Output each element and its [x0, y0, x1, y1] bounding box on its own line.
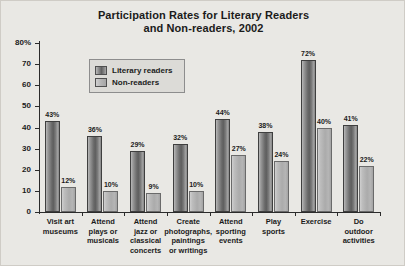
bar-non-readers[interactable]: 9%: [146, 193, 161, 212]
x-axis-separator-tick: [252, 212, 253, 216]
bar-literary-readers[interactable]: 36%: [87, 136, 102, 212]
chart-legend: Literary readers Non-readers: [89, 59, 185, 93]
x-axis-end-tick: [380, 212, 381, 216]
bar-literary-readers[interactable]: 43%: [45, 121, 60, 212]
bar-value-label: 41%: [344, 115, 358, 123]
y-axis-label: 60: [1, 81, 31, 89]
bar-non-readers[interactable]: 10%: [189, 191, 204, 212]
legend-label-literary-readers: Literary readers: [112, 66, 172, 75]
bar-non-readers[interactable]: 12%: [61, 187, 76, 212]
category-label: Do outdoor activities: [331, 217, 386, 246]
bar-group: 44%27%: [215, 43, 246, 212]
bar-literary-readers[interactable]: 38%: [258, 132, 273, 212]
chart-title-line-1: Participation Rates for Literary Readers: [1, 9, 405, 22]
bar-value-label: 72%: [301, 50, 315, 58]
y-axis-label: 30: [1, 145, 31, 153]
bar-group: 43%12%: [45, 43, 76, 212]
legend-item-non-readers[interactable]: Non-readers: [95, 76, 179, 88]
bar-value-label: 9%: [149, 183, 159, 191]
y-axis-label: 10: [1, 187, 31, 195]
bar-value-label: 43%: [45, 111, 59, 119]
bar-value-label: 10%: [104, 181, 118, 189]
bar-value-label: 32%: [173, 134, 187, 142]
x-axis-separator-tick: [82, 212, 83, 216]
bar-value-label: 12%: [61, 177, 75, 185]
bar-group: 41%22%: [343, 43, 374, 212]
bar-literary-readers[interactable]: 44%: [215, 119, 230, 212]
legend-swatch-icon-literary-readers: [95, 66, 107, 75]
legend-swatch-icon-non-readers: [95, 78, 107, 87]
bar-value-label: 10%: [189, 181, 203, 189]
y-axis-label: 0: [1, 208, 31, 216]
x-axis-separator-tick: [337, 212, 338, 216]
bar-non-readers[interactable]: 24%: [274, 161, 289, 212]
y-axis-label: 70: [1, 60, 31, 68]
bar-value-label: 40%: [317, 118, 331, 126]
y-axis-tick: [35, 212, 39, 213]
x-axis-separator-tick: [295, 212, 296, 216]
bar-literary-readers[interactable]: 72%: [301, 60, 316, 212]
bar-literary-readers[interactable]: 41%: [343, 125, 358, 212]
y-axis-label: 80%: [1, 39, 31, 47]
y-axis-label: 20: [1, 166, 31, 174]
x-axis-separator-tick: [210, 212, 211, 216]
bar-group: 38%24%: [258, 43, 289, 212]
bar-literary-readers[interactable]: 29%: [130, 151, 145, 212]
bar-non-readers[interactable]: 22%: [359, 166, 374, 212]
y-axis-label: 40: [1, 124, 31, 132]
bar-value-label: 44%: [216, 109, 230, 117]
chart-title-line-2: and Non-readers, 2002: [1, 22, 405, 35]
bar-value-label: 24%: [274, 151, 288, 159]
legend-item-literary-readers[interactable]: Literary readers: [95, 64, 179, 76]
bar-value-label: 22%: [360, 156, 374, 164]
x-axis-separator-tick: [167, 212, 168, 216]
bar-value-label: 36%: [88, 126, 102, 134]
chart-title: Participation Rates for Literary Readers…: [1, 9, 405, 35]
bar-non-readers[interactable]: 40%: [317, 128, 332, 213]
bar-literary-readers[interactable]: 32%: [173, 144, 188, 212]
chart-container: Participation Rates for Literary Readers…: [0, 0, 405, 266]
bar-value-label: 29%: [131, 141, 145, 149]
legend-label-non-readers: Non-readers: [112, 78, 159, 87]
bar-value-label: 38%: [258, 122, 272, 130]
bar-non-readers[interactable]: 10%: [103, 191, 118, 212]
x-axis-separator-tick: [124, 212, 125, 216]
bar-group: 72%40%: [301, 43, 332, 212]
bar-value-label: 27%: [232, 145, 246, 153]
y-axis-label: 50: [1, 102, 31, 110]
bar-non-readers[interactable]: 27%: [231, 155, 246, 212]
